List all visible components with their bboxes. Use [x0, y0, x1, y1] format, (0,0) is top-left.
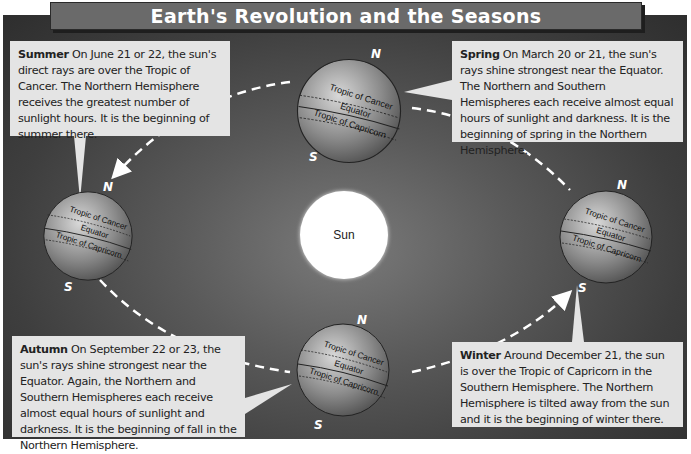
- title-bar: Earth's Revolution and the Seasons: [50, 2, 642, 30]
- north-pole-label-autumn: N: [357, 313, 367, 327]
- sun-label: Sun: [333, 228, 354, 242]
- south-pole-label-autumn: S: [314, 418, 323, 432]
- summer-description: On June 21 or 22, the sun's direct rays …: [18, 48, 216, 141]
- spring-info-box: Spring On March 20 or 21, the sun's rays…: [452, 41, 683, 142]
- autumn-info-box: Autumn On September 22 or 23, the sun's …: [12, 336, 245, 437]
- diagram-title: Earth's Revolution and the Seasons: [151, 5, 542, 27]
- north-pole-label-spring: N: [371, 47, 381, 61]
- autumn-heading: Autumn: [20, 343, 68, 356]
- south-pole-label-spring: S: [309, 150, 318, 164]
- north-pole-label-summer: N: [103, 180, 113, 194]
- earth-globe-winter: Tropic of Cancer Equator Tropic of Capri…: [556, 187, 656, 287]
- summer-info-box: Summer On June 21 or 22, the sun's direc…: [10, 41, 230, 136]
- winter-info-box: Winter Around December 21, the sun is ov…: [452, 342, 683, 427]
- summer-heading: Summer: [18, 48, 69, 61]
- earth-globe-summer: Tropic of Cancer Equator Tropic of Capri…: [40, 188, 136, 284]
- winter-heading: Winter: [460, 349, 501, 362]
- spring-description: On March 20 or 21, the sun's rays shine …: [460, 48, 673, 157]
- autumn-description: On September 22 or 23, the sun's rays sh…: [20, 343, 236, 452]
- spring-pointer: [404, 80, 452, 100]
- spring-heading: Spring: [460, 48, 500, 61]
- north-pole-label-winter: N: [617, 178, 627, 192]
- south-pole-label-summer: S: [64, 280, 73, 294]
- sun: Sun: [300, 191, 388, 279]
- south-pole-label-winter: S: [578, 281, 587, 295]
- autumn-pointer: [245, 384, 292, 414]
- earth-globe-autumn: Tropic of Cancer Equator Tropic of Capri…: [293, 320, 393, 420]
